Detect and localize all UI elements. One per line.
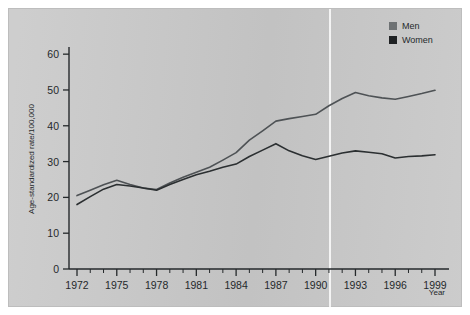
legend-label-women: Women — [402, 35, 433, 45]
series-group — [77, 90, 435, 204]
y-ticklabel-group: 0102030405060 — [47, 48, 59, 275]
x-ticklabel-group: 1972197519781981198419871990199319961999 — [65, 279, 447, 291]
x-tick-label: 1990 — [304, 279, 328, 291]
y-axis-title: Age-standardized rate/100,000 — [27, 104, 36, 214]
y-tick-group — [63, 54, 69, 269]
y-tick-label: 0 — [53, 263, 59, 275]
x-tick-group — [77, 269, 435, 276]
series-line-women — [77, 144, 435, 205]
x-tick-label: 1975 — [105, 279, 129, 291]
legend-label-men: Men — [402, 21, 420, 31]
y-tick-label: 40 — [47, 120, 59, 132]
legend-swatch-women — [389, 36, 397, 44]
x-tick-label: 1996 — [384, 279, 408, 291]
x-tick-label: 1981 — [185, 279, 209, 291]
x-tick-label: 1978 — [145, 279, 169, 291]
y-tick-label: 30 — [47, 156, 59, 168]
legend: MenWomen — [389, 21, 433, 45]
x-tick-label: 1987 — [264, 279, 288, 291]
y-tick-label: 60 — [47, 48, 59, 60]
chart-svg: 0102030405060 19721975197819811984198719… — [9, 9, 463, 308]
x-tick-label: 1972 — [65, 279, 89, 291]
y-tick-label: 50 — [47, 84, 59, 96]
figure-panel: 0102030405060 19721975197819811984198719… — [8, 8, 462, 307]
x-tick-label: 1993 — [344, 279, 368, 291]
axes-group — [69, 47, 449, 269]
series-line-men — [77, 90, 435, 195]
line-chart: 0102030405060 19721975197819811984198719… — [9, 9, 461, 306]
y-tick-label: 10 — [47, 227, 59, 239]
y-tick-label: 20 — [47, 191, 59, 203]
x-tick-label: 1984 — [224, 279, 248, 291]
legend-swatch-men — [389, 22, 397, 30]
x-axis-title: Year — [429, 288, 446, 297]
